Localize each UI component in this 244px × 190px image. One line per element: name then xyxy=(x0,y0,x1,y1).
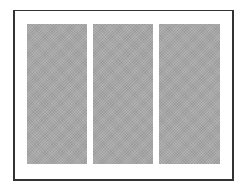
center-panel xyxy=(93,24,153,164)
right-panel xyxy=(159,24,220,164)
left-panel xyxy=(27,24,87,164)
outer-frame xyxy=(13,10,234,181)
